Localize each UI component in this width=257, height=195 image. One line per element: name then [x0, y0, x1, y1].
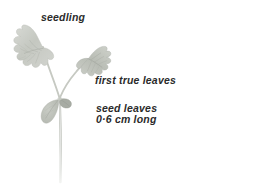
true-leaf-right [76, 46, 110, 75]
stem [60, 97, 61, 182]
label-seed-leaves-measurement: 0·6 cm long [96, 114, 157, 125]
stem-node [58, 97, 62, 100]
seed-leaf-right [60, 99, 72, 108]
label-first-true-leaves: first true leaves [95, 75, 176, 86]
seed-leaf-left [41, 99, 59, 123]
true-leaf-left [14, 25, 54, 67]
label-seedling: seedling [41, 12, 85, 23]
seedling-plant-illustration [0, 0, 257, 195]
label-seed-leaves: seed leaves 0·6 cm long [96, 103, 157, 125]
seedling-figure: seedling first true leaves seed leaves 0… [0, 0, 257, 195]
